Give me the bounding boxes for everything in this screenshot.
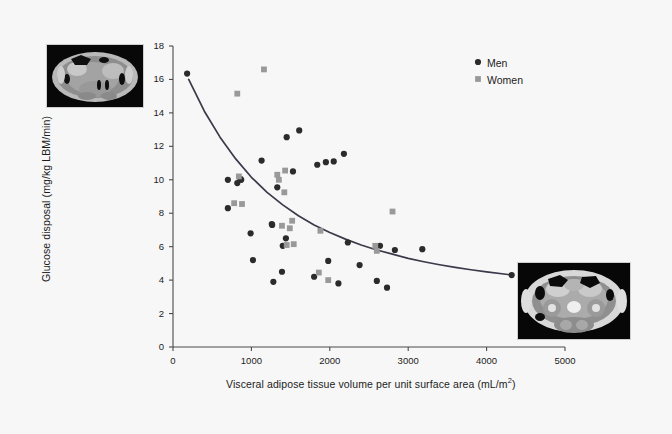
data-point-women [239,201,245,207]
x-tick-label: 4000 [473,355,501,366]
y-tick-label: 2 [137,308,164,319]
data-point-men [384,285,390,291]
x-tick-label: 3000 [394,355,422,366]
data-point-women [316,270,322,276]
data-point-men [419,246,425,252]
data-point-women [325,277,331,283]
x-axis-title: Visceral adipose tissue volume per unit … [226,376,516,390]
x-tick-label: 1000 [237,355,265,366]
data-point-women [287,225,293,231]
data-point-men [296,127,302,133]
scatter-plot [0,0,672,434]
data-point-men [184,70,190,76]
x-axis-title-text: Visceral adipose tissue volume per unit … [226,378,508,390]
data-point-women [291,241,297,247]
data-point-men [314,162,320,168]
y-tick-label: 10 [137,174,164,185]
x-tick-label: 0 [159,355,187,366]
data-point-men [345,239,351,245]
legend-marker-women [475,76,481,82]
y-tick-label: 18 [137,40,164,51]
data-point-women [390,209,396,215]
y-axis-title: Glucose disposal (mg/kg LBM/min) [40,84,52,314]
y-tick-label: 14 [137,107,164,118]
data-point-women [231,200,237,206]
legend-label-men: Men [487,57,507,69]
data-point-women [276,177,282,183]
x-tick-label: 5000 [551,355,579,366]
data-point-men [335,280,341,286]
data-point-men [269,222,275,228]
data-point-women [279,223,285,229]
data-point-women [284,242,290,248]
data-point-men [270,279,276,285]
data-point-men [325,258,331,264]
data-point-women [282,168,288,174]
y-tick-label: 6 [137,241,164,252]
data-point-men [284,134,290,140]
data-point-men [283,235,289,241]
y-tick-label: 0 [137,341,164,352]
data-point-men [392,247,398,253]
y-tick-label: 8 [137,207,164,218]
data-point-men [509,272,515,278]
data-point-men [225,177,231,183]
data-point-women [261,67,267,73]
legend-label-women: Women [487,74,523,86]
data-point-women [234,91,240,97]
data-point-women [289,218,295,224]
data-point-men [331,158,337,164]
data-point-women [281,189,287,195]
y-tick-label: 16 [137,73,164,84]
data-point-men [248,230,254,236]
legend-marker-men [475,59,481,65]
data-point-men [290,168,296,174]
x-axis-title-tail: ) [512,378,516,390]
y-tick-label: 12 [137,140,164,151]
data-point-men [258,157,264,163]
y-tick-label: 4 [137,274,164,285]
data-point-women [274,172,280,178]
data-point-women [236,174,242,180]
x-tick-label: 2000 [316,355,344,366]
data-point-men [250,257,256,263]
data-point-men [356,262,362,268]
data-point-men [225,205,231,211]
figure-container: Men Women Visceral adipose tissue volume… [0,0,672,434]
data-point-women [372,243,378,249]
data-point-men [341,151,347,157]
data-point-men [279,269,285,275]
data-point-women [374,248,380,254]
data-point-men [274,184,280,190]
data-point-women [317,228,323,234]
data-point-men [323,159,329,165]
data-point-men [374,278,380,284]
